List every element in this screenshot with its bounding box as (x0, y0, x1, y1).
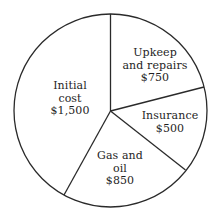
slice-label-insurance: Insurance $500 (142, 110, 199, 135)
slice-value: $500 (142, 123, 199, 136)
slice-label-line: Gas and (97, 150, 143, 163)
slice-value: $1,500 (50, 105, 89, 118)
slice-label-line: Initial (50, 80, 89, 93)
pie-chart: Initial cost $1,500 Upkeep and repairs $… (0, 0, 217, 222)
slice-label-gas-and-oil: Gas and oil $850 (97, 150, 143, 188)
slice-label-line: Insurance (142, 110, 199, 123)
slice-value: $850 (97, 175, 143, 188)
slice-label-initial-cost: Initial cost $1,500 (50, 80, 89, 118)
slice-label-line: Upkeep (122, 47, 187, 60)
slice-label-upkeep-and-repairs: Upkeep and repairs $750 (122, 47, 187, 85)
slice-value: $750 (122, 72, 187, 85)
